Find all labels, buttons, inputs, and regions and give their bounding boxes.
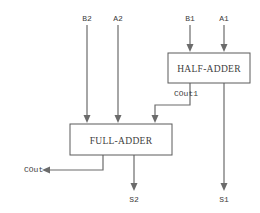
wire-group: [50, 25, 224, 183]
arrowhead-s1: [221, 183, 228, 191]
signal-label-cout: COut: [24, 165, 43, 174]
signal-label-group: B2 A2 B1 A1 COut1 COut S2 S1: [24, 14, 229, 204]
circuit-diagram: HALF-ADDER FULL-ADDER B2 A2 B1 A1 COut1 …: [0, 0, 260, 213]
circuit-canvas: HALF-ADDER FULL-ADDER B2 A2 B1 A1 COut1 …: [0, 0, 260, 213]
signal-label-b1: B1: [185, 14, 195, 23]
signal-label-s2: S2: [129, 195, 139, 204]
signal-label-a2: A2: [113, 14, 123, 23]
wire-cout1: [155, 83, 190, 115]
block-label-half-adder: HALF-ADDER: [177, 64, 241, 74]
block-group: HALF-ADDER FULL-ADDER: [70, 53, 250, 155]
arrowhead-b1: [187, 44, 194, 52]
arrowhead-s2: [131, 183, 138, 191]
block-label-full-adder: FULL-ADDER: [90, 136, 153, 146]
arrowhead-a1: [221, 44, 228, 52]
wire-cout: [50, 155, 103, 170]
signal-label-b2: B2: [82, 14, 92, 23]
signal-label-s1: S1: [219, 195, 229, 204]
signal-label-cout1: COut1: [174, 89, 198, 98]
arrowhead-a2: [115, 115, 122, 123]
arrowhead-cout1: [152, 115, 159, 123]
arrowhead-b2: [84, 115, 91, 123]
signal-label-a1: A1: [219, 14, 229, 23]
